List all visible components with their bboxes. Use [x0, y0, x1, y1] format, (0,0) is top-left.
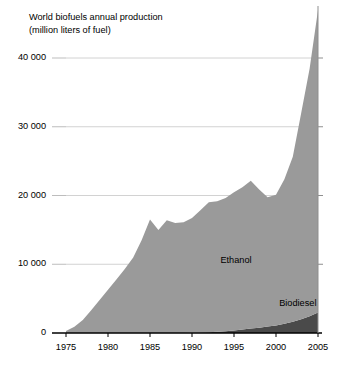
xtick-label: 1995: [214, 342, 254, 352]
biofuels-area-chart: World biofuels annual production (millio…: [0, 0, 337, 366]
ytick-label: 20 000: [0, 190, 46, 200]
xtick-label: 1990: [172, 342, 212, 352]
series-label-ethanol: Ethanol: [220, 255, 251, 265]
ytick-label: 0: [0, 327, 46, 337]
xtick-label: 1980: [88, 342, 128, 352]
ytick-label: 10 000: [0, 258, 46, 268]
xtick-label: 2000: [256, 342, 296, 352]
xtick-label: 1975: [46, 342, 86, 352]
plot-area: [0, 0, 337, 366]
ytick-label: 40 000: [0, 52, 46, 62]
series-label-biodiesel: Biodiesel: [279, 298, 316, 308]
xtick-label: 2005: [298, 342, 337, 352]
xtick-label: 1985: [130, 342, 170, 352]
ytick-label: 30 000: [0, 121, 46, 131]
